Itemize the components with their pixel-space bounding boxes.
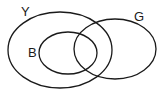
venn-diagram: Y B G bbox=[0, 0, 166, 102]
set-y-label: Y bbox=[21, 4, 30, 19]
set-b-label: B bbox=[28, 45, 37, 60]
set-g-ellipse bbox=[74, 19, 156, 79]
set-b-ellipse bbox=[39, 32, 97, 74]
set-g-label: G bbox=[134, 9, 144, 24]
